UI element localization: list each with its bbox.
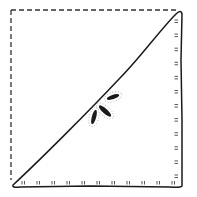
- motion-mark: [106, 93, 120, 101]
- motion-marks: [87, 90, 123, 128]
- motion-mark: [97, 104, 112, 118]
- stitch-marks-bottom: [22, 181, 175, 185]
- fold-diagram: [0, 0, 197, 197]
- diagram-svg: [0, 0, 197, 197]
- stitch-marks-right: [175, 20, 179, 178]
- folded-triangle: [13, 12, 182, 188]
